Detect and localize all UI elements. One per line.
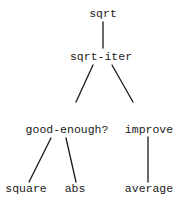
edge-sqrt-iter-to-improve bbox=[112, 65, 133, 102]
node-sqrt-iter: sqrt-iter bbox=[70, 51, 132, 63]
node-good-enough: good-enough? bbox=[26, 124, 109, 136]
node-abs: abs bbox=[65, 183, 86, 195]
edge-good-enough-to-abs bbox=[66, 138, 76, 182]
procedure-decomposition-diagram: sqrt sqrt-iter good-enough? improve squa… bbox=[0, 0, 180, 206]
node-square: square bbox=[5, 183, 46, 195]
node-improve: improve bbox=[125, 124, 173, 136]
node-sqrt: sqrt bbox=[89, 8, 117, 20]
edge-sqrt-iter-to-good-enough bbox=[76, 65, 93, 102]
node-average: average bbox=[125, 183, 173, 195]
edges-layer bbox=[0, 0, 180, 206]
edge-good-enough-to-square bbox=[29, 138, 51, 182]
